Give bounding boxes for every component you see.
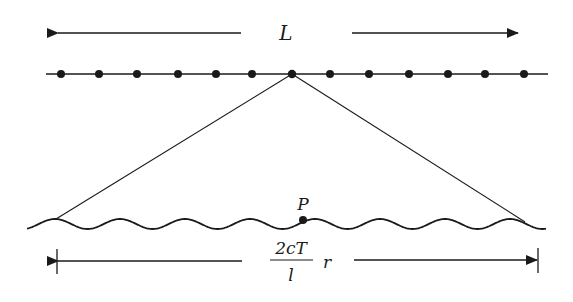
- right-ray: [292, 74, 525, 222]
- left-ray: [56, 74, 292, 219]
- source-dot: [212, 70, 220, 78]
- source-dot: [95, 70, 103, 78]
- source-dot: [133, 70, 141, 78]
- top-dimension-arrow: L: [58, 21, 518, 45]
- source-dot: [365, 70, 373, 78]
- wavy-surface: [27, 219, 546, 229]
- source-dot: [57, 70, 65, 78]
- fraction-suffix: r: [323, 252, 332, 272]
- source-dot: [405, 70, 413, 78]
- source-dot: [520, 70, 528, 78]
- source-dot: [174, 70, 182, 78]
- diagram-canvas: L P 2cT l r: [0, 0, 573, 302]
- point-p-label: P: [296, 194, 309, 214]
- source-dot: [248, 70, 256, 78]
- source-dot: [481, 70, 489, 78]
- top-span-label: L: [278, 21, 292, 45]
- bottom-dimension-arrow: 2cT l r: [57, 238, 538, 285]
- fraction-denominator: l: [288, 265, 293, 285]
- source-dot: [326, 70, 334, 78]
- fraction-numerator: 2cT: [274, 238, 308, 258]
- projection-rays: [56, 74, 525, 222]
- source-dot: [444, 70, 452, 78]
- point-p-dot: [299, 216, 307, 224]
